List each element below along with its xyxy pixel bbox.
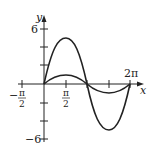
x-axis-label: x bbox=[140, 84, 147, 97]
y-tick-label-6: 6 bbox=[31, 23, 38, 36]
x-tick-label-half-pi-num: π bbox=[63, 88, 69, 98]
x-tick-label-neg-half-pi-num: π bbox=[19, 88, 25, 98]
x-tick-label-neg-half-pi-sign: − bbox=[9, 89, 18, 102]
x-tick-label-neg-half-pi-den: 2 bbox=[19, 99, 25, 109]
x-tick-label-half-pi-den: 2 bbox=[63, 99, 69, 109]
chart: y 6 −6 x 2π − π 2 π 2 bbox=[0, 0, 149, 153]
x-tick-label-2pi: 2π bbox=[124, 67, 138, 80]
y-tick-label-neg6: −6 bbox=[25, 133, 41, 146]
y-axis-arrow-icon bbox=[42, 15, 47, 22]
